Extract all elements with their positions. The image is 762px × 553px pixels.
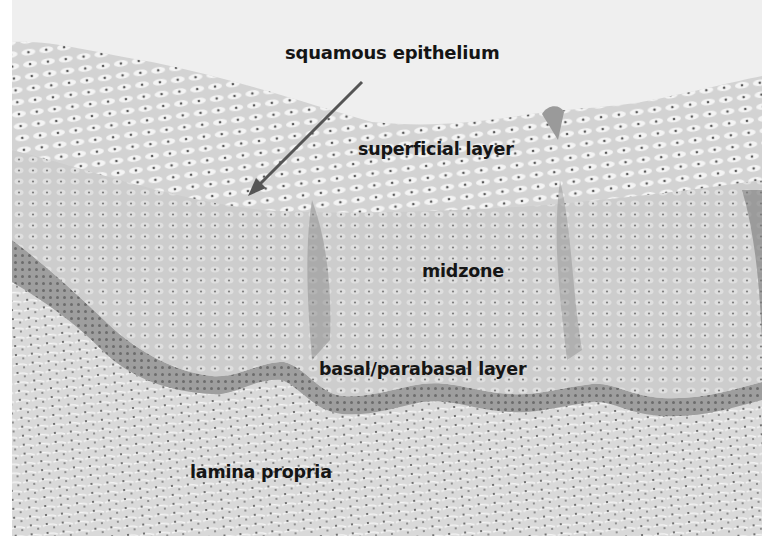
label-midzone: midzone [422, 263, 504, 281]
figure-border-bottom [12, 536, 762, 538]
label-lamina-propria: lamina propria [190, 464, 332, 482]
tissue-illustration [12, 0, 762, 538]
label-basal-parabasal-layer: basal/parabasal layer [319, 361, 526, 379]
label-squamous-epithelium: squamous epithelium [285, 44, 499, 62]
histology-figure: squamous epithelium superficial layer mi… [12, 0, 762, 538]
label-superficial-layer: superficial layer [358, 141, 514, 159]
